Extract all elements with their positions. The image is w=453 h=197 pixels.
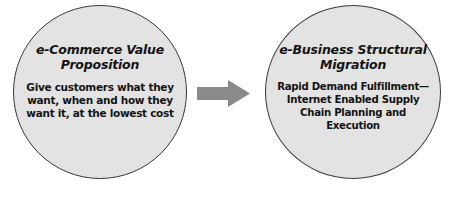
- node-body-right: Rapid Demand Fulfillment—Internet Enable…: [272, 80, 434, 132]
- diagram-canvas: e-Commerce Value Proposition Give custom…: [0, 0, 453, 197]
- node-body-left: Give customers what they want, when and …: [23, 81, 177, 121]
- flow-arrow-right: [197, 80, 250, 107]
- node-ebusiness-structural-migration: e-Business Structural Migration Rapid De…: [265, 5, 441, 179]
- node-title-left: e-Commerce Value Proposition: [25, 42, 175, 72]
- node-title-right: e-Business Structural Migration: [278, 42, 428, 72]
- node-ecommerce-value-proposition: e-Commerce Value Proposition Give custom…: [13, 5, 187, 179]
- arrow-right-icon: [197, 80, 250, 107]
